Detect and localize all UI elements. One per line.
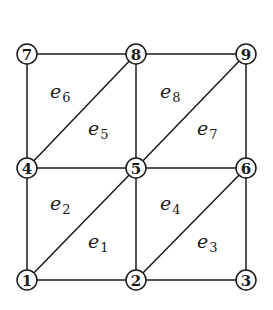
- node-8: 8: [126, 44, 146, 64]
- element-label-e8: e8: [160, 80, 181, 105]
- element-label-e6: e6: [50, 80, 71, 105]
- edge-2-6: [136, 168, 246, 280]
- edge-5-9: [136, 54, 246, 168]
- edge-1-5: [27, 168, 136, 280]
- node-5: 5: [126, 158, 146, 178]
- node-2: 2: [126, 270, 146, 290]
- node-3: 3: [236, 270, 256, 290]
- node-6: 6: [236, 158, 256, 178]
- node-9: 9: [236, 44, 256, 64]
- element-label-e7: e7: [197, 117, 218, 142]
- node-label: 2: [131, 272, 141, 290]
- node-label: 8: [131, 46, 141, 64]
- element-label-e5: e5: [88, 117, 109, 142]
- node-1: 1: [17, 270, 37, 290]
- edge-4-8: [27, 54, 136, 168]
- node-4: 4: [17, 158, 37, 178]
- node-label: 9: [241, 46, 251, 64]
- node-label: 5: [131, 160, 141, 178]
- element-label-e1: e1: [88, 230, 109, 255]
- node-label: 6: [241, 160, 251, 178]
- node-label: 7: [22, 46, 32, 64]
- mesh-diagram: e1e2e3e4e5e6e7e8 123456789: [0, 0, 273, 310]
- node-label: 1: [22, 272, 32, 290]
- element-label-e4: e4: [160, 192, 181, 217]
- element-label-e3: e3: [197, 230, 218, 255]
- node-label: 3: [241, 272, 251, 290]
- element-label-e2: e2: [50, 192, 71, 217]
- node-7: 7: [17, 44, 37, 64]
- node-label: 4: [22, 160, 32, 178]
